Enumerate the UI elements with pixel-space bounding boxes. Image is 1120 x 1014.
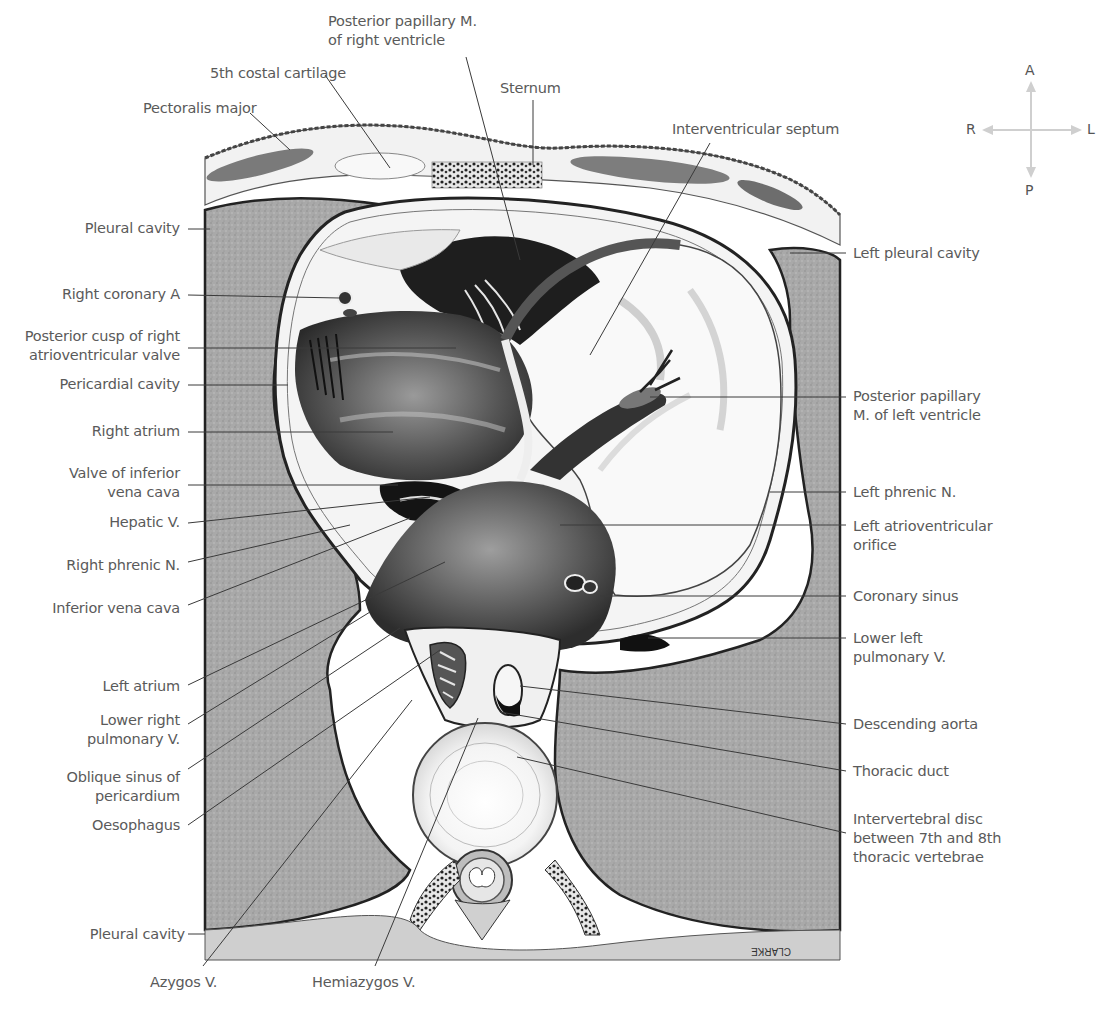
label-left-atrium: Left atrium xyxy=(102,677,180,696)
label-oblique-sinus-pericardium: Oblique sinus of pericardium xyxy=(66,768,180,806)
label-right-phrenic-n: Right phrenic N. xyxy=(66,556,180,575)
label-posterior-cusp-right-av-valve: Posterior cusp of right atrioventricular… xyxy=(25,327,180,365)
label-lower-right-pulmonary-v: Lower right pulmonary V. xyxy=(87,711,180,749)
label-coronary-sinus: Coronary sinus xyxy=(853,587,958,606)
label-left-phrenic-n: Left phrenic N. xyxy=(853,483,956,502)
label-sternum: Sternum xyxy=(500,79,561,98)
label-right-atrium: Right atrium xyxy=(92,422,180,441)
label-pleural-cavity-lower: Pleural cavity xyxy=(90,925,185,944)
orientation-compass xyxy=(982,81,1082,178)
label-oesophagus: Oesophagus xyxy=(92,816,180,835)
label-thoracic-duct: Thoracic duct xyxy=(853,762,949,781)
label-inferior-vena-cava: Inferior vena cava xyxy=(52,599,180,618)
label-azygos-v: Azygos V. xyxy=(150,973,217,992)
compass-left-label: L xyxy=(1087,121,1095,137)
label-pericardial-cavity: Pericardial cavity xyxy=(59,375,180,394)
label-pectoralis-major: Pectoralis major xyxy=(143,99,256,118)
label-hepatic-v: Hepatic V. xyxy=(109,513,180,532)
label-interventricular-septum: Interventricular septum xyxy=(672,120,839,139)
label-descending-aorta: Descending aorta xyxy=(853,715,978,734)
thorax-cross-section-figure: CLARKE xyxy=(0,0,1120,1014)
label-5th-costal-cartilage: 5th costal cartilage xyxy=(210,64,346,83)
compass-right-label: R xyxy=(966,121,976,137)
label-pleural-cavity-upper: Pleural cavity xyxy=(85,219,180,238)
artist-signature: CLARKE xyxy=(751,946,791,957)
compass-anterior-label: A xyxy=(1025,62,1035,78)
compass-posterior-label: P xyxy=(1025,182,1033,198)
label-posterior-papillary-lv: Posterior papillary M. of left ventricle xyxy=(853,387,981,425)
label-right-coronary-a: Right coronary A xyxy=(62,285,180,304)
label-left-pleural-cavity: Left pleural cavity xyxy=(853,244,980,263)
label-posterior-papillary-rv: Posterior papillary M. of right ventricl… xyxy=(328,12,477,50)
label-valve-inferior-vena-cava: Valve of inferior vena cava xyxy=(69,464,180,502)
label-hemiazygos-v: Hemiazygos V. xyxy=(312,973,415,992)
label-left-av-orifice: Left atrioventricular orifice xyxy=(853,517,993,555)
label-lower-left-pulmonary-v: Lower left pulmonary V. xyxy=(853,629,946,667)
label-intervertebral-disc: Intervertebral disc between 7th and 8th … xyxy=(853,810,1001,867)
